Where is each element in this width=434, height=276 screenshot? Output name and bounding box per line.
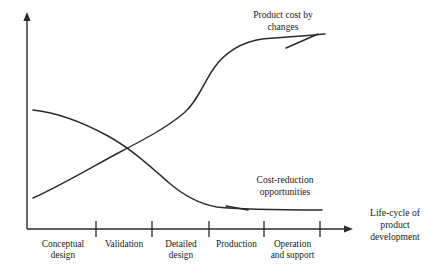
y-axis	[23, 12, 30, 229]
category-label-detailed-design: Detailed design	[155, 239, 207, 262]
category-label-conceptual-design: Conceptual design	[31, 239, 95, 262]
category-label-validation: Validation	[98, 239, 150, 250]
chart-figure: Product cost by changes Cost-reduction o…	[0, 0, 434, 276]
category-label-production: Production	[210, 239, 263, 250]
y-axis-arrow-icon	[23, 12, 30, 21]
x-axis-title: Life-cycle of product development	[356, 207, 434, 243]
x-axis	[27, 225, 353, 232]
annotation-cost-reduction-opportunities: Cost-reduction opportunities	[224, 174, 346, 198]
category-label-operation-and-support: Operation and support	[265, 239, 320, 262]
x-axis-arrow-icon	[344, 225, 353, 232]
annotation-product-cost-by-changes: Product cost by changes	[225, 9, 341, 33]
